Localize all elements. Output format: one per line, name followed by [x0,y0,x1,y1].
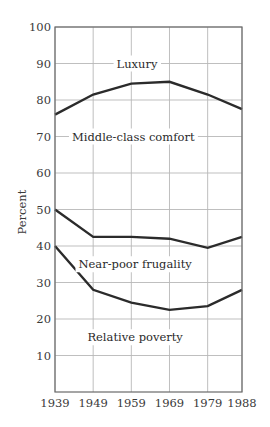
x-tick-label: 1939 [40,396,69,410]
y-tick-label: 10 [36,349,51,363]
region-label-4: Relative poverty [84,329,186,345]
x-tick-label: 1949 [79,396,108,410]
region-label-text: Relative poverty [87,330,183,344]
series-line-1 [55,82,242,115]
x-tick-label: 1988 [227,396,256,410]
region-label-text: Near-poor frugality [78,257,192,271]
y-tick-label: 30 [36,276,51,290]
series-lines [55,82,242,310]
y-tick-label: 70 [36,130,51,144]
y-tick-label: 40 [36,239,51,253]
x-tick-label: 1969 [155,396,184,410]
y-tick-label: 50 [36,203,51,217]
y-tick-label: 20 [36,312,51,326]
region-label-3: Near-poor frugality [75,256,195,272]
y-tick-label: 80 [36,93,51,107]
y-tick-label: 90 [36,57,51,71]
region-label-text: Middle-class comfort [72,130,195,144]
y-tick-label: 100 [29,20,51,34]
series-line-2 [55,210,242,248]
x-axis-ticks: 193919491959196919791988 [40,396,256,410]
region-label-2: Middle-class comfort [69,129,198,145]
line-chart: LuxuryMiddle-class comfortNear-poor frug… [0,0,270,427]
x-tick-label: 1959 [117,396,146,410]
region-label-text: Luxury [117,57,158,71]
y-axis-ticks: 102030405060708090100 [29,20,51,363]
y-tick-label: 60 [36,166,51,180]
region-label-1: Luxury [114,56,161,72]
x-tick-label: 1979 [193,396,222,410]
y-axis-label: Percent [15,189,29,234]
series-line-3 [55,246,242,310]
